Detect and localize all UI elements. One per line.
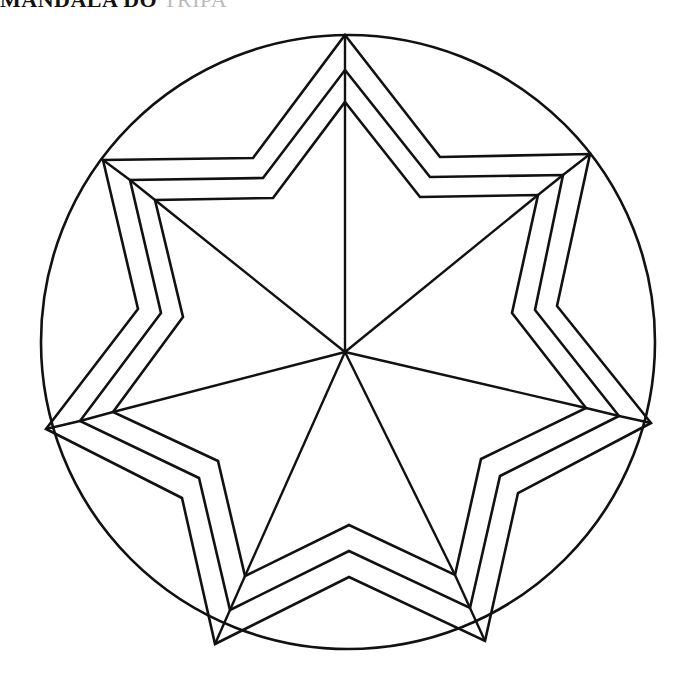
outer-circle [41, 35, 655, 649]
spoke-line [113, 352, 345, 412]
spoke-line [155, 200, 345, 352]
mandala-coloring-drawing [0, 0, 685, 693]
star-layers [46, 35, 651, 644]
star-outline-middle [80, 70, 619, 610]
spoke-line [345, 195, 538, 352]
spoke-line [245, 352, 345, 576]
spoke-line [345, 352, 455, 575]
